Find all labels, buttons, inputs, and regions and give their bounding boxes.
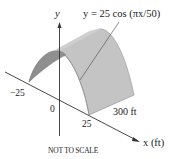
- parabolic-roof-diagram: y y = 25 cos (πx/50) −25 0 25 300 ft x (…: [0, 0, 169, 159]
- front-arch-face: [29, 51, 66, 82]
- y-axis-arrowhead: [58, 22, 62, 28]
- tick-label-25: 25: [82, 120, 92, 130]
- roof-surface: [29, 29, 134, 115]
- not-to-scale-note: NOT TO SCALE: [48, 147, 98, 155]
- length-label: 300 ft: [113, 107, 137, 117]
- x-axis-label: x (ft): [143, 138, 164, 149]
- y-axis-label: y: [55, 9, 60, 20]
- equation-label: y = 25 cos (πx/50): [83, 9, 160, 20]
- x-axis-arrowhead: [132, 137, 140, 142]
- tick-label-zero: 0: [50, 105, 55, 115]
- tick-label-neg-25: −25: [10, 89, 25, 99]
- diagram-graphic: [0, 0, 169, 159]
